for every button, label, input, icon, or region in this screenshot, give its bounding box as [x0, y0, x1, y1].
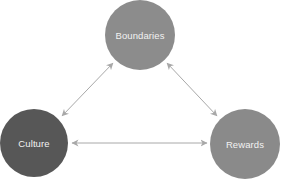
arrow-boundaries-rewards — [167, 63, 217, 116]
arrow-boundaries-culture — [62, 63, 113, 116]
node-culture: Culture — [0, 109, 68, 177]
node-boundaries-label: Boundaries — [115, 30, 164, 41]
node-culture-label: Culture — [18, 138, 49, 149]
node-rewards-label: Rewards — [226, 139, 264, 150]
relationship-diagram: Boundaries Culture Rewards — [0, 0, 283, 184]
node-boundaries: Boundaries — [105, 0, 175, 70]
node-rewards: Rewards — [210, 109, 280, 179]
